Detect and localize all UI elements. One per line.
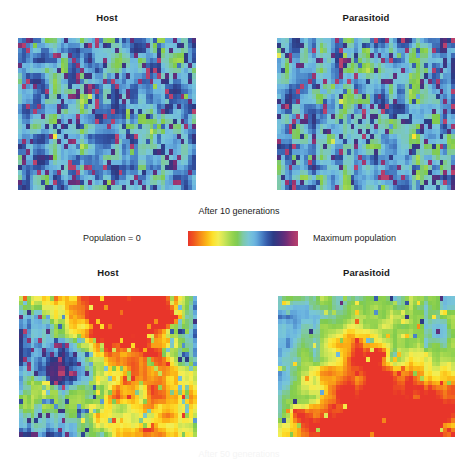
figure-canvas: Host Parasitoid After 10 generations Pop… xyxy=(0,0,473,459)
panel-title-host-generation-10: Host xyxy=(18,12,196,23)
heatmap-host-generation-50 xyxy=(19,296,197,437)
legend-max-label: Maximum population xyxy=(313,233,396,244)
heatmap-host-generation-10 xyxy=(18,38,196,190)
legend-min-label: Population = 0 xyxy=(83,233,141,244)
heatmap-parasitoid-generation-10 xyxy=(277,38,455,190)
caption-after-10-generations: After 10 generations xyxy=(139,206,339,217)
heatmap-parasitoid-generation-50 xyxy=(278,296,455,437)
panel-title-parasitoid-generation-10: Parasitoid xyxy=(277,12,455,23)
population-colorbar xyxy=(188,231,298,246)
panel-title-host-generation-50: Host xyxy=(19,267,197,278)
caption-after-50-generations: After 50 generations xyxy=(139,449,339,459)
panel-title-parasitoid-generation-50: Parasitoid xyxy=(278,267,455,278)
